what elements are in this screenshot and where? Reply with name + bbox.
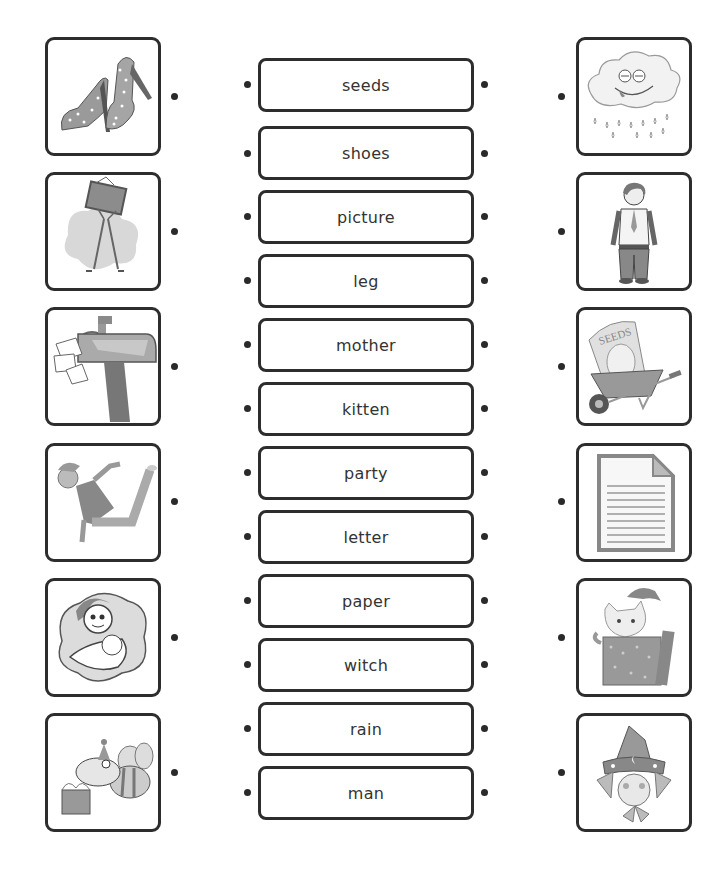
word-box-mother: mother [258, 318, 474, 372]
word-right-dot-kitten[interactable] [481, 405, 488, 412]
right-dot-kitten[interactable] [558, 634, 565, 641]
word-right-dot-mother[interactable] [481, 341, 488, 348]
word-left-dot-picture[interactable] [244, 213, 251, 220]
word-right-dot-picture[interactable] [481, 213, 488, 220]
left-dot-picture[interactable] [171, 228, 178, 235]
person-holding-picture-icon [48, 175, 158, 288]
kitten-in-box-icon [579, 581, 689, 694]
word-right-dot-man[interactable] [481, 789, 488, 796]
word-box-leg: leg [258, 254, 474, 308]
dancing-boy-leg-icon [48, 446, 158, 559]
word-right-dot-witch[interactable] [481, 661, 488, 668]
right-dot-rain[interactable] [558, 93, 565, 100]
party-bee-icon [48, 716, 158, 829]
left-dot-leg[interactable] [171, 498, 178, 505]
mailbox-letters-icon [48, 310, 158, 423]
word-left-dot-letter[interactable] [244, 533, 251, 540]
word-right-dot-seeds[interactable] [481, 81, 488, 88]
word-box-paper: paper [258, 574, 474, 628]
left-dot-mother[interactable] [171, 634, 178, 641]
lined-paper-icon [579, 446, 689, 559]
left-dot-shoes[interactable] [171, 93, 178, 100]
right-dot-man[interactable] [558, 228, 565, 235]
left-dot-party[interactable] [171, 769, 178, 776]
word-box-kitten: kitten [258, 382, 474, 436]
word-left-dot-kitten[interactable] [244, 405, 251, 412]
word-left-dot-seeds[interactable] [244, 81, 251, 88]
left-dot-letter[interactable] [171, 363, 178, 370]
word-box-seeds: seeds [258, 58, 474, 112]
witch-hat-icon [579, 716, 689, 829]
word-box-witch: witch [258, 638, 474, 692]
word-box-party: party [258, 446, 474, 500]
word-left-dot-leg[interactable] [244, 277, 251, 284]
wheelbarrow-seeds-icon: SEEDS [579, 310, 689, 423]
rain-cloud-icon [579, 40, 689, 153]
right-picture-paper [576, 443, 692, 562]
word-right-dot-party[interactable] [481, 469, 488, 476]
word-right-dot-rain[interactable] [481, 725, 488, 732]
left-picture-picture [45, 172, 161, 291]
word-left-dot-paper[interactable] [244, 597, 251, 604]
word-box-man: man [258, 766, 474, 820]
left-picture-leg [45, 443, 161, 562]
word-right-dot-letter[interactable] [481, 533, 488, 540]
word-right-dot-leg[interactable] [481, 277, 488, 284]
mother-with-baby-icon [48, 581, 158, 694]
right-dot-seeds[interactable] [558, 363, 565, 370]
word-right-dot-paper[interactable] [481, 597, 488, 604]
right-picture-kitten [576, 578, 692, 697]
left-picture-mother [45, 578, 161, 697]
high-heel-shoes-icon [48, 40, 158, 153]
right-dot-paper[interactable] [558, 498, 565, 505]
right-picture-seeds: SEEDS [576, 307, 692, 426]
right-picture-witch [576, 713, 692, 832]
word-left-dot-rain[interactable] [244, 725, 251, 732]
word-box-letter: letter [258, 510, 474, 564]
left-picture-shoes [45, 37, 161, 156]
word-box-picture: picture [258, 190, 474, 244]
word-left-dot-witch[interactable] [244, 661, 251, 668]
left-picture-party [45, 713, 161, 832]
word-box-shoes: shoes [258, 126, 474, 180]
standing-man-icon [579, 175, 689, 288]
right-dot-witch[interactable] [558, 769, 565, 776]
word-left-dot-party[interactable] [244, 469, 251, 476]
word-right-dot-shoes[interactable] [481, 150, 488, 157]
left-picture-letter [45, 307, 161, 426]
right-picture-man [576, 172, 692, 291]
word-left-dot-man[interactable] [244, 789, 251, 796]
right-picture-rain [576, 37, 692, 156]
word-left-dot-mother[interactable] [244, 341, 251, 348]
word-left-dot-shoes[interactable] [244, 150, 251, 157]
word-box-rain: rain [258, 702, 474, 756]
